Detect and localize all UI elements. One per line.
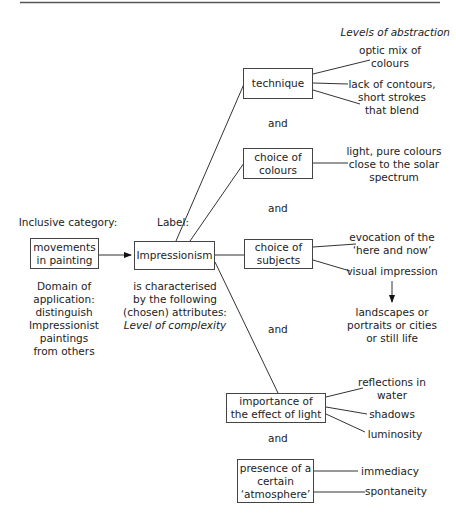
attribute-box-text: choice of subjects: [255, 241, 302, 267]
attribute-box-text: presence of a certain ‘atmosphere’: [240, 462, 311, 501]
attribute-box-text: importance of the effect of light: [231, 395, 322, 421]
detail-optic-mix: optic mix of colours: [346, 44, 434, 70]
inclusive-category-label: Inclusive category:: [18, 216, 118, 229]
and-connector: and: [268, 202, 288, 214]
detail-shadows: shadows: [366, 408, 418, 421]
detail-evocation-here-and-now: evocation of the ‘here and now’: [340, 231, 444, 257]
levels-of-abstraction-heading: Levels of abstraction: [340, 26, 450, 39]
attribute-box-technique: technique: [243, 68, 313, 99]
detail-reflections-in-water: reflections in water: [350, 376, 434, 402]
label-box-text: Impressionism: [136, 249, 212, 262]
attribute-box-text: choice of colours: [254, 151, 301, 177]
and-connector: and: [268, 323, 288, 335]
impressionism-concept-diagram: Levels of abstraction Inclusive category…: [0, 0, 456, 519]
category-box-text: movements in painting: [33, 241, 95, 267]
domain-of-application-text: Domain of application: distinguish Impre…: [20, 280, 108, 358]
detail-spontaneity: spontaneity: [364, 485, 428, 498]
detail-immediacy: immediacy: [360, 465, 420, 478]
detail-visual-impression: visual impression: [340, 265, 444, 278]
characterised-by-text: is characterised by the following (chose…: [122, 280, 228, 319]
attribute-box-choice-of-subjects: choice of subjects: [244, 239, 313, 269]
label-caption: Label:: [148, 216, 198, 229]
detail-lack-of-contours: lack of contours, short strokes that ble…: [340, 78, 444, 117]
attribute-box-atmosphere: presence of a certain ‘atmosphere’: [237, 459, 314, 503]
category-box-movements-in-painting: movements in painting: [30, 238, 99, 269]
detail-landscapes-portraits: landscapes or portraits or cities or sti…: [336, 306, 448, 345]
label-box-impressionism: Impressionism: [134, 241, 215, 270]
and-connector: and: [268, 432, 288, 444]
and-connector: and: [268, 117, 288, 129]
level-of-complexity-label: Level of complexity: [122, 319, 228, 332]
detail-luminosity: luminosity: [364, 428, 426, 441]
attribute-box-effect-of-light: importance of the effect of light: [226, 393, 326, 423]
attribute-box-choice-of-colours: choice of colours: [243, 148, 313, 179]
attribute-box-text: technique: [252, 77, 304, 90]
detail-light-pure-colours: light, pure colours close to the solar s…: [338, 145, 450, 184]
